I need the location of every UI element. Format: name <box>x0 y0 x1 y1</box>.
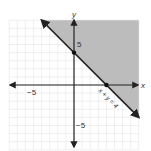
y-axis-label: y <box>71 10 77 19</box>
intercept-point <box>72 50 76 54</box>
x-tick-label-neg5: −5 <box>27 88 37 97</box>
intercept-point <box>104 83 108 87</box>
y-tick-label-5: 5 <box>77 40 82 49</box>
x-axis-label: x <box>140 81 146 90</box>
graph-canvas: x y −5 5 −5 x + y = 4 <box>0 0 151 151</box>
y-tick-label-neg5: −5 <box>76 121 86 130</box>
